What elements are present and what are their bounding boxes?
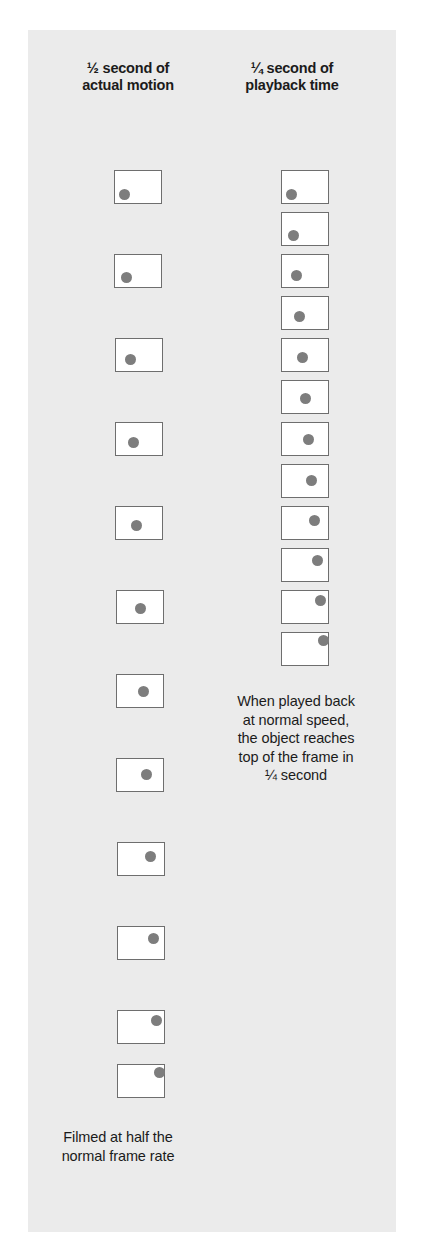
column-header-actual-motion-line1: ½ second of: [58, 60, 198, 77]
caption-playback-explanation: When played back at normal speed, the ob…: [214, 692, 378, 785]
moving-object-dot: [318, 635, 329, 646]
film-frame-actual-motion-5: [115, 506, 163, 540]
film-frame-actual-motion-11: [117, 1010, 165, 1044]
film-frame-playback-time-1: [281, 170, 329, 204]
film-frame-actual-motion-7: [116, 674, 164, 708]
column-header-actual-motion-line2: actual motion: [58, 77, 198, 94]
moving-object-dot: [154, 1067, 165, 1078]
moving-object-dot: [151, 1015, 162, 1026]
moving-object-dot: [303, 434, 314, 445]
moving-object-dot: [288, 230, 299, 241]
film-frame-actual-motion-2: [114, 254, 162, 288]
caption-playback-line1: When played back: [214, 692, 378, 711]
film-frame-actual-motion-3: [115, 338, 163, 372]
moving-object-dot: [297, 352, 308, 363]
moving-object-dot: [145, 851, 156, 862]
film-frame-actual-motion-6: [116, 590, 164, 624]
film-frame-actual-motion-8: [116, 758, 164, 792]
moving-object-dot: [125, 354, 136, 365]
moving-object-dot: [135, 603, 146, 614]
film-frame-playback-time-12: [281, 632, 329, 666]
moving-object-dot: [312, 555, 323, 566]
film-frame-playback-time-6: [281, 380, 329, 414]
film-frame-playback-time-11: [281, 590, 329, 624]
film-frame-playback-time-8: [281, 464, 329, 498]
moving-object-dot: [131, 520, 142, 531]
moving-object-dot: [286, 189, 297, 200]
film-frame-playback-time-10: [281, 548, 329, 582]
caption-playback-line4: top of the frame in: [214, 748, 378, 767]
moving-object-dot: [315, 595, 326, 606]
moving-object-dot: [148, 933, 159, 944]
figure-panel: [28, 30, 396, 1232]
film-frame-playback-time-2: [281, 212, 329, 246]
moving-object-dot: [141, 769, 152, 780]
moving-object-dot: [300, 393, 311, 404]
film-frame-actual-motion-9: [117, 842, 165, 876]
column-header-playback-time: ¼ second of playback time: [222, 60, 362, 94]
film-frame-playback-time-7: [281, 422, 329, 456]
caption-playback-line2: at normal speed,: [214, 711, 378, 730]
caption-playback-line3: the object reaches: [214, 729, 378, 748]
caption-filmed-line2: normal frame rate: [30, 1147, 206, 1166]
film-frame-playback-time-3: [281, 254, 329, 288]
film-frame-actual-motion-1: [114, 170, 162, 204]
film-frame-actual-motion-4: [115, 422, 163, 456]
moving-object-dot: [119, 189, 130, 200]
caption-playback-line5: ¼ second: [214, 766, 378, 785]
film-frame-actual-motion-10: [117, 926, 165, 960]
moving-object-dot: [309, 515, 320, 526]
moving-object-dot: [306, 475, 317, 486]
film-frame-playback-time-5: [281, 338, 329, 372]
column-header-playback-time-line1: ¼ second of: [222, 60, 362, 77]
film-frame-actual-motion-12: [117, 1064, 165, 1098]
column-header-actual-motion: ½ second of actual motion: [58, 60, 198, 94]
moving-object-dot: [138, 686, 149, 697]
film-frame-playback-time-9: [281, 506, 329, 540]
caption-filmed-line1: Filmed at half the: [30, 1128, 206, 1147]
moving-object-dot: [121, 272, 132, 283]
moving-object-dot: [291, 270, 302, 281]
moving-object-dot: [128, 437, 139, 448]
column-header-playback-time-line2: playback time: [222, 77, 362, 94]
moving-object-dot: [294, 311, 305, 322]
caption-filmed-note: Filmed at half the normal frame rate: [30, 1128, 206, 1165]
film-frame-playback-time-4: [281, 296, 329, 330]
